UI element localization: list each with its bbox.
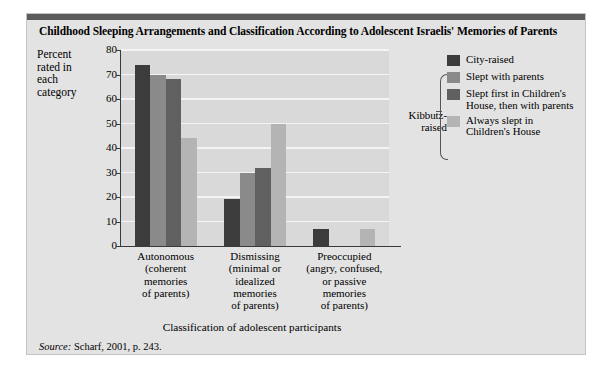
y-tick-mark xyxy=(116,197,121,198)
chart-bar xyxy=(271,124,287,247)
source-note: Source: Scharf, 2001, p. 243. xyxy=(39,341,162,352)
legend-swatch-icon xyxy=(447,72,460,83)
y-axis-ticks: 01020304050607080 xyxy=(79,50,117,247)
x-category-label-line: or passive xyxy=(286,275,403,287)
legend: City-raisedSlept with parentsSlept first… xyxy=(447,54,579,141)
chart-bar xyxy=(150,75,166,247)
legend-item-label: Always slept in Children's House xyxy=(466,115,579,139)
chart-bar xyxy=(135,65,151,246)
x-category-label: Preoccupied(angry, confused,or passiveme… xyxy=(286,250,403,311)
legend-item: Slept first in Children's House, then wi… xyxy=(447,88,579,112)
x-category-label-line: memories xyxy=(286,287,403,299)
x-axis-title: Classification of adolescent participant… xyxy=(87,321,417,333)
y-tick-label: 80 xyxy=(87,43,117,55)
figure-panel: Childhood Sleeping Arrangements and Clas… xyxy=(27,14,585,354)
chart-bar xyxy=(255,168,271,246)
y-tick-mark xyxy=(116,99,121,100)
legend-item-label: Slept first in Children's House, then wi… xyxy=(466,88,579,112)
chart-bar xyxy=(313,229,329,246)
source-text: Scharf, 2001, p. 243. xyxy=(74,341,162,352)
y-tick-label: 20 xyxy=(87,190,117,202)
chart-bar xyxy=(224,199,240,246)
legend-item-label: City-raised xyxy=(466,54,579,66)
y-tick-mark xyxy=(116,124,121,125)
y-tick-label: 40 xyxy=(87,141,117,153)
x-category-label-line: of parents) xyxy=(286,299,403,311)
plot-area xyxy=(121,50,389,246)
chart-bar xyxy=(166,79,182,246)
y-tick-label: 70 xyxy=(87,68,117,80)
legend-item: City-raised xyxy=(447,54,579,68)
chart-bar xyxy=(360,229,376,246)
gridline xyxy=(121,49,389,51)
y-tick-label: 30 xyxy=(87,166,117,178)
y-tick-mark xyxy=(116,173,121,174)
y-tick-mark xyxy=(116,50,121,51)
y-tick-label: 60 xyxy=(87,92,117,104)
source-label: Source: xyxy=(39,341,71,352)
y-tick-mark xyxy=(116,246,121,247)
y-tick-label: 50 xyxy=(87,117,117,129)
chart-bar xyxy=(181,138,197,246)
legend-item-label: Slept with parents xyxy=(466,71,579,83)
y-tick-mark xyxy=(116,222,121,223)
legend-swatch-icon xyxy=(447,89,460,100)
x-axis-line xyxy=(120,246,401,247)
chart-bar xyxy=(240,173,256,247)
legend-swatch-icon xyxy=(447,55,460,66)
top-band-decoration xyxy=(27,14,585,20)
legend-item: Slept with parents xyxy=(447,71,579,85)
y-tick-mark xyxy=(116,75,121,76)
legend-swatch-icon xyxy=(447,116,460,127)
chart-title: Childhood Sleeping Arrangements and Clas… xyxy=(39,25,579,37)
y-tick-mark xyxy=(116,148,121,149)
legend-item: Always slept in Children's House xyxy=(447,115,579,139)
x-category-label-line: Preoccupied xyxy=(286,250,403,262)
y-tick-label: 10 xyxy=(87,215,117,227)
x-category-label-line: (angry, confused, xyxy=(286,262,403,274)
